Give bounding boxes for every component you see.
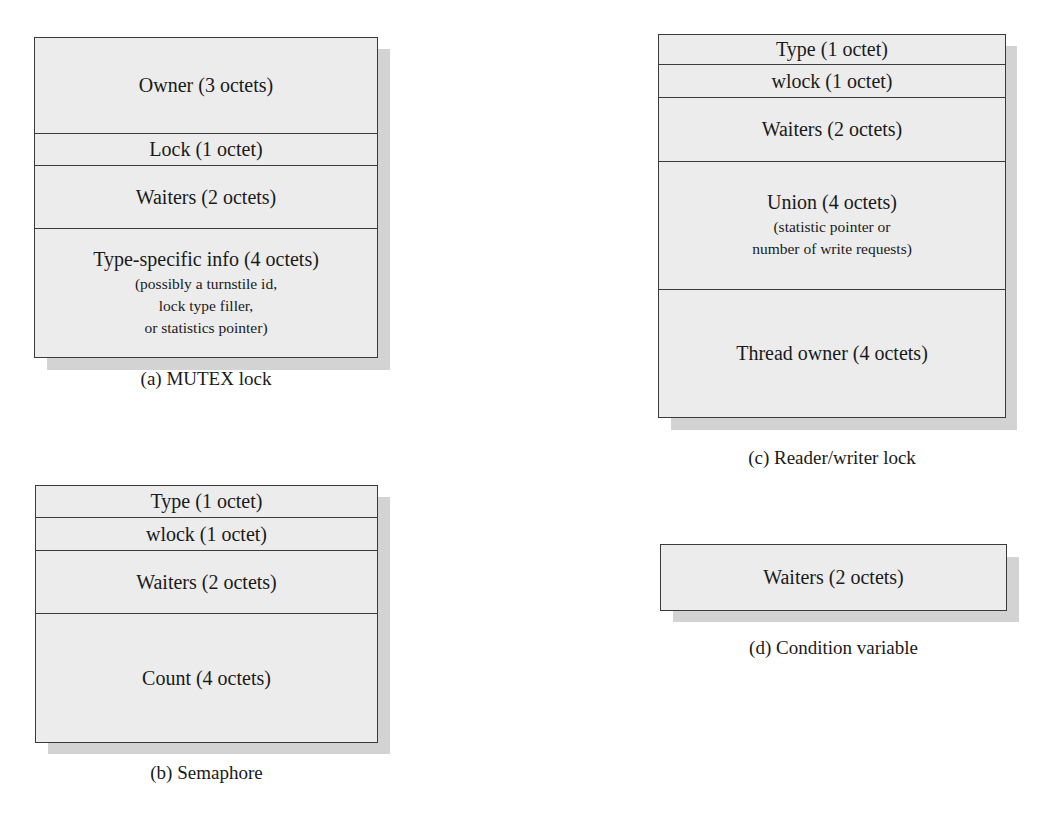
field-label: Waiters (2 octets) [136, 571, 277, 594]
field-label: Type (1 octet) [151, 490, 263, 513]
mutex-caption: (a) MUTEX lock [34, 368, 378, 390]
mutex-field-type-specific: Type-specific info (4 octets) (possibly … [35, 229, 377, 357]
field-note: number of write requests) [752, 238, 912, 260]
field-label: Waiters (2 octets) [762, 118, 903, 141]
condvar-caption: (d) Condition variable [660, 637, 1007, 659]
field-label: Waiters (2 octets) [136, 186, 277, 209]
rwlock-box: Type (1 octet) wlock (1 octet) Waiters (… [658, 34, 1006, 418]
field-label: wlock (1 octet) [146, 523, 267, 546]
semaphore-caption: (b) Semaphore [35, 762, 378, 784]
rwlock-caption: (c) Reader/writer lock [658, 447, 1006, 469]
semaphore-field-wlock: wlock (1 octet) [36, 518, 377, 551]
rwlock-field-thread-owner: Thread owner (4 octets) [659, 290, 1005, 417]
field-label: wlock (1 octet) [771, 70, 892, 93]
rwlock-field-wlock: wlock (1 octet) [659, 65, 1005, 98]
rwlock-field-waiters: Waiters (2 octets) [659, 98, 1005, 162]
rwlock-field-type: Type (1 octet) [659, 35, 1005, 65]
semaphore-field-count: Count (4 octets) [36, 614, 377, 742]
field-label: Thread owner (4 octets) [736, 342, 928, 365]
field-label: Waiters (2 octets) [763, 566, 904, 589]
semaphore-box: Type (1 octet) wlock (1 octet) Waiters (… [35, 485, 378, 743]
semaphore-field-type: Type (1 octet) [36, 486, 377, 518]
mutex-field-lock: Lock (1 octet) [35, 134, 377, 166]
mutex-field-waiters: Waiters (2 octets) [35, 166, 377, 229]
field-label: Owner (3 octets) [139, 74, 273, 97]
field-label: Union (4 octets) [767, 191, 897, 214]
rwlock-field-union: Union (4 octets) (statistic pointer or n… [659, 162, 1005, 290]
condvar-field-waiters: Waiters (2 octets) [661, 545, 1006, 610]
field-note: (possibly a turnstile id, [135, 273, 277, 295]
field-note: or statistics pointer) [144, 317, 267, 339]
mutex-box: Owner (3 octets) Lock (1 octet) Waiters … [34, 37, 378, 358]
field-label: Type-specific info (4 octets) [93, 248, 319, 271]
condvar-box: Waiters (2 octets) [660, 544, 1007, 611]
field-label: Lock (1 octet) [149, 138, 262, 161]
field-note: lock type filler, [159, 295, 254, 317]
field-label: Type (1 octet) [776, 38, 888, 61]
mutex-field-owner: Owner (3 octets) [35, 38, 377, 134]
field-label: Count (4 octets) [142, 667, 271, 690]
field-note: (statistic pointer or [773, 216, 890, 238]
semaphore-field-waiters: Waiters (2 octets) [36, 551, 377, 614]
